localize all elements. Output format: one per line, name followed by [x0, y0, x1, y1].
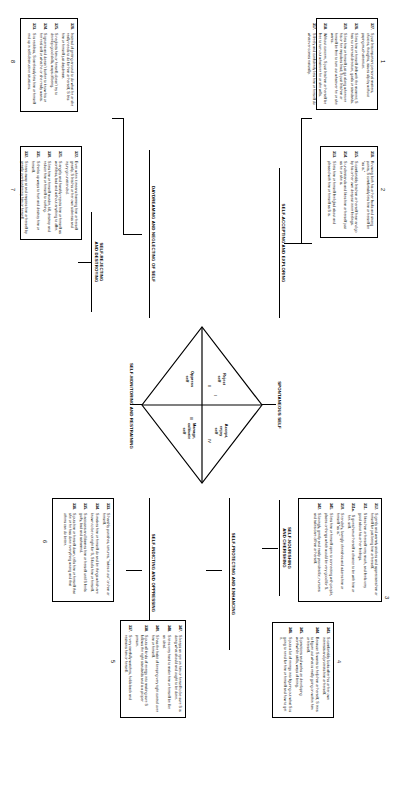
item-text: S makes him or herself do and be things …: [90, 513, 99, 597]
item-number: 321.: [53, 151, 62, 158]
item-number: 313.: [327, 151, 336, 158]
list-item: 337. S very carefully watches, holds bac…: [124, 625, 133, 713]
item-text: S gives him or herself a chance to be wi…: [347, 515, 356, 597]
connector: [262, 548, 278, 549]
item-number: 311a.: [347, 503, 356, 512]
list-item: 323. S is reckless, S carelessly lets hi…: [27, 23, 36, 107]
item-text: S lets him or herself drift with the mom…: [349, 33, 358, 105]
connector: [206, 570, 222, 571]
quadrant-label-2: Reject self: [216, 359, 226, 399]
item-text: S likes him or herself very much, and fe…: [358, 513, 367, 597]
box-number-4: 4: [336, 660, 342, 663]
item-number: 319.: [329, 23, 347, 30]
text-box-3: 312. S gently and warmly strokes and app…: [298, 498, 382, 602]
item-number: 336.: [63, 503, 76, 510]
quadrant-roman-4: IV: [207, 439, 212, 443]
list-item: 341. S lets him or herself open to conne…: [324, 503, 333, 597]
list-item: 315. S comfortably lets him or herself h…: [349, 151, 358, 233]
item-number: 335.: [79, 503, 88, 510]
item-number: 343.: [321, 627, 330, 634]
item-list-8: 326. Instead of getting around to do wha…: [27, 23, 74, 107]
item-text: S lets him or herself murder, kill, dest…: [42, 161, 51, 235]
item-text: Because S wants to help him or herself, …: [305, 637, 318, 713]
list-item: 345. S practices and works on developing…: [294, 627, 303, 713]
box-number-7: 7: [10, 188, 16, 191]
item-text: S comfortably lets him or herself hear a…: [349, 161, 358, 233]
item-list-2: 316. Knowing both his or her faults and …: [327, 151, 374, 233]
item-text: S neglects him or herself; doesn't try t…: [49, 33, 58, 107]
item-number: 332.: [20, 151, 29, 158]
item-list-5: 347. S keeps an eye on him or herself to…: [124, 625, 182, 713]
list-item: 342. S lovingly, gently and easily provi…: [313, 503, 322, 597]
item-number: 316.: [361, 151, 374, 158]
item-number: 327.: [361, 23, 374, 30]
diagram-canvas: Accept, enjoy self I Reject self II Oppr…: [0, 0, 404, 810]
item-number: 326.: [61, 23, 74, 30]
item-text: S ignores and doesn't bother to know his…: [38, 33, 47, 107]
item-number: 338.: [135, 625, 148, 632]
item-number: 330.: [42, 151, 51, 158]
quadrant-label-3: Oppress self: [184, 359, 194, 399]
list-item: 318. Without concern, S just lets him or…: [318, 23, 327, 105]
list-item: 316. Knowing both his or her faults and …: [361, 151, 374, 233]
connector: [301, 118, 312, 119]
list-item: 348. S tries very hard to make him or he…: [162, 625, 171, 713]
item-number: 324.: [38, 23, 47, 30]
item-text: S very carefully watches, holds back and…: [124, 635, 133, 713]
item-text: S lovingly, gently and easily provides f…: [313, 513, 322, 597]
list-item: 311a. S gives him or herself a chance to…: [347, 503, 356, 597]
list-item: 343. S comfortably looks after his or he…: [321, 627, 330, 713]
list-item: 326. Instead of getting around to do wha…: [61, 23, 74, 107]
list-item: 327. S just lets important personal matt…: [361, 23, 374, 105]
text-box-5: 347. S keeps an eye on him or herself to…: [120, 620, 186, 718]
item-text: S lets him or herself open to connecting…: [324, 513, 333, 597]
list-item: 347. S keeps an eye on him or herself to…: [173, 625, 182, 713]
list-item: 331. S thinks up ways to hurt and destro…: [31, 151, 40, 235]
item-number: 337.: [124, 625, 133, 632]
list-item: 326. S lets him or herself drift with th…: [349, 23, 358, 105]
quadrant-label-4: Manage, cultivate self: [182, 409, 196, 453]
list-item: 311. S likes him or herself very much, a…: [358, 503, 367, 597]
item-number: 340.: [151, 625, 160, 632]
item-number: 331.: [31, 151, 40, 158]
connector: [126, 570, 142, 571]
connector: [301, 118, 302, 244]
list-item: 322. Even when it means harming him or h…: [65, 151, 78, 235]
central-diamond: Accept, enjoy self I Reject self II Oppr…: [140, 325, 264, 485]
list-item: 310. S tenderly, lovingly cherishes and …: [335, 503, 344, 597]
list-item: 319. S lets him or herself just go along…: [329, 23, 347, 105]
box-number-6: 6: [42, 540, 48, 543]
item-number: 346.: [278, 627, 291, 634]
item-text: S just lets important personal matters, …: [361, 33, 374, 105]
item-number: 318.: [318, 23, 327, 30]
connector: [112, 118, 124, 119]
item-text: S comfortably looks after his or her own…: [321, 637, 330, 713]
item-text: S puts a lot of energy into figuring out…: [278, 637, 291, 713]
item-text: Knowing both his or her faults and stron…: [361, 161, 374, 233]
box-number-3: 3: [384, 596, 390, 599]
item-number: 322.: [65, 151, 78, 158]
header-daydreaming-and-neglecting-of-self: DAYDREAMING AND NEGLECTING OF SELF: [149, 150, 156, 318]
item-text: S puts him or herself down, tells him or…: [63, 513, 76, 597]
figure-frame: Accept, enjoy self I Reject self II Oppr…: [0, 0, 404, 810]
item-text: S lets him or herself just go along wher…: [329, 33, 347, 105]
item-text: S keeps an eye on him or herself to be s…: [173, 635, 182, 713]
item-list-4: 343. S comfortably looks after his or he…: [278, 627, 330, 713]
item-number: 314.: [338, 151, 347, 158]
list-item: 324. S ignores and doesn't bother to kno…: [38, 23, 47, 107]
box-number-8: 8: [10, 60, 16, 63]
list-item: 336. S puts him or herself down, tells h…: [63, 503, 76, 597]
item-number: 342.: [313, 503, 322, 510]
quadrant-label-1: Accept, enjoy self: [214, 409, 228, 453]
list-item: 335. S accuses and blames him or herself…: [79, 503, 88, 597]
header-self-nourishing-and-cherishing: SELF-NOURISHING AND CHERISHING: [279, 500, 292, 596]
box-number-5: 5: [110, 660, 116, 663]
axis-label-top: SPONTANEOUS SELF: [277, 335, 282, 475]
list-item: 344. Because S wants to help him or hers…: [305, 627, 318, 713]
list-item: 333. S harshly punishes, tortures, "take…: [101, 503, 110, 597]
list-item: 321. S angrily and harshly rejects him o…: [53, 151, 62, 235]
item-number: 312.: [369, 503, 378, 510]
list-item: 334. S makes him or herself do and be th…: [90, 503, 99, 597]
list-item: 312. S gently and warmly strokes and app…: [369, 503, 378, 597]
text-box-7: 322. Even when it means harming him or h…: [20, 146, 82, 240]
